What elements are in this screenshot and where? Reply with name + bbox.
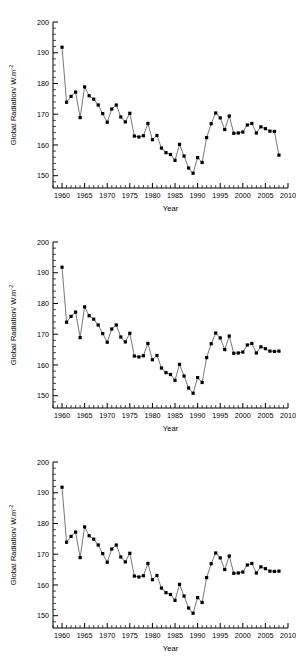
data-point <box>268 350 271 353</box>
data-point <box>241 130 244 133</box>
data-point <box>178 363 181 366</box>
data-point <box>210 562 213 565</box>
data-point <box>137 135 140 138</box>
y-tick-label: 160 <box>37 581 49 590</box>
data-point <box>97 543 100 546</box>
series-markers <box>60 46 280 175</box>
data-point <box>196 596 199 599</box>
plot-area-2: 1960196519701975198019851990199520002005… <box>0 220 296 440</box>
data-point <box>128 112 131 115</box>
data-point <box>223 568 226 571</box>
chart-panel-3: 1960196519701975198019851990199520002005… <box>0 440 296 660</box>
x-tick-label: 1985 <box>167 411 183 420</box>
y-tick-label: 170 <box>37 110 49 119</box>
x-tick-label: 1985 <box>167 631 183 640</box>
data-point <box>97 323 100 326</box>
data-point <box>228 334 231 337</box>
data-point <box>164 151 167 154</box>
data-point <box>255 131 258 134</box>
data-point <box>110 107 113 110</box>
data-point <box>74 90 77 93</box>
data-point <box>65 321 68 324</box>
data-point <box>205 136 208 139</box>
data-point <box>259 125 262 128</box>
y-tick-label: 180 <box>37 79 49 88</box>
x-axis-title: Year <box>163 204 179 213</box>
y-tick-label: 170 <box>37 330 49 339</box>
data-point <box>219 336 222 339</box>
data-point <box>273 130 276 133</box>
data-point <box>115 323 118 326</box>
data-point <box>277 350 280 353</box>
x-tick-label: 1995 <box>212 411 228 420</box>
data-point <box>92 98 95 101</box>
data-point <box>201 381 204 384</box>
data-point <box>214 551 217 554</box>
chart-panel-2: 1960196519701975198019851990199520002005… <box>0 220 296 440</box>
data-point <box>92 318 95 321</box>
data-point <box>74 530 77 533</box>
x-tick-label: 1970 <box>99 631 115 640</box>
data-point <box>133 134 136 137</box>
data-point <box>128 552 131 555</box>
data-point <box>119 115 122 118</box>
x-tick-label: 1975 <box>122 631 138 640</box>
x-axis-title: Year <box>163 424 179 433</box>
data-point <box>88 314 91 317</box>
x-tick-label: 2000 <box>235 631 251 640</box>
data-point <box>155 574 158 577</box>
data-point <box>192 172 195 175</box>
data-point <box>232 132 235 135</box>
data-point <box>69 95 72 98</box>
x-tick-label: 2000 <box>235 191 251 200</box>
plot-area-3: 1960196519701975198019851990199520002005… <box>0 440 296 660</box>
data-point <box>74 310 77 313</box>
x-tick-label: 1980 <box>144 191 160 200</box>
data-point <box>151 578 154 581</box>
data-point <box>79 556 82 559</box>
data-point <box>119 555 122 558</box>
y-axis-title: Global Radiation/ W.m-2 <box>8 65 18 145</box>
x-tick-label: 1970 <box>99 411 115 420</box>
data-point <box>60 486 63 489</box>
data-point <box>232 572 235 575</box>
x-tick-label: 1960 <box>54 411 70 420</box>
x-axis-title: Year <box>163 644 179 653</box>
data-point <box>228 114 231 117</box>
x-tick-label: 1990 <box>190 631 206 640</box>
x-tick-label: 1985 <box>167 191 183 200</box>
data-point <box>173 159 176 162</box>
data-point <box>97 103 100 106</box>
data-point <box>250 122 253 125</box>
data-point <box>264 567 267 570</box>
x-tick-label: 1965 <box>77 191 93 200</box>
x-tick-label: 1975 <box>122 411 138 420</box>
data-point <box>178 143 181 146</box>
data-point <box>214 331 217 334</box>
data-point <box>101 552 104 555</box>
data-point <box>237 131 240 134</box>
data-point <box>88 94 91 97</box>
data-point <box>106 121 109 124</box>
data-point <box>255 351 258 354</box>
data-point <box>83 525 86 528</box>
figure-three-panel-global-radiation: 1960196519701975198019851990199520002005… <box>0 0 296 661</box>
data-point <box>182 594 185 597</box>
data-point <box>133 354 136 357</box>
data-point <box>146 342 149 345</box>
data-point <box>246 123 249 126</box>
data-point <box>173 599 176 602</box>
x-tick-label: 2005 <box>257 631 273 640</box>
data-point <box>164 591 167 594</box>
data-point <box>88 534 91 537</box>
data-point <box>255 571 258 574</box>
y-tick-label: 180 <box>37 299 49 308</box>
data-point <box>192 612 195 615</box>
x-tick-label: 1960 <box>54 191 70 200</box>
x-tick-label: 1965 <box>77 631 93 640</box>
data-point <box>273 350 276 353</box>
data-point <box>155 354 158 357</box>
data-point <box>151 138 154 141</box>
data-point <box>115 103 118 106</box>
y-tick-label: 150 <box>37 391 49 400</box>
